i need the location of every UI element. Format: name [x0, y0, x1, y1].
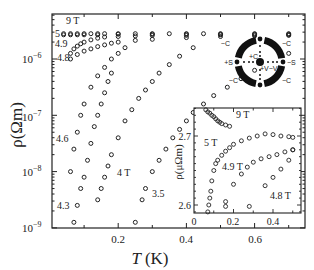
data-point	[89, 141, 93, 145]
data-point	[82, 49, 86, 53]
data-point	[69, 170, 73, 174]
inset-label-5T: 5 T	[204, 137, 217, 148]
data-point	[116, 40, 120, 44]
data-point	[123, 119, 127, 123]
data-point	[164, 147, 168, 151]
data-point	[106, 164, 110, 168]
inset-plot: 2.7 2.6 0 0.2 0.4 ρ(μΩm) 9 T 5 T 4.9 T 4…	[172, 108, 301, 227]
data-point	[212, 94, 216, 98]
inset-label-4.8T: 4.8 T	[270, 190, 291, 201]
contact-label-c-plus: +C	[249, 53, 258, 60]
data-point	[72, 220, 76, 224]
data-point	[103, 65, 107, 69]
label-3.5T: 3.5	[152, 188, 165, 199]
data-point	[171, 136, 175, 140]
data-point	[157, 71, 161, 75]
data-point	[96, 45, 100, 49]
data-point	[99, 187, 103, 191]
data-point	[150, 80, 154, 84]
data-point	[89, 85, 93, 89]
inset-y-axis-label: ρ(μΩm)	[172, 144, 185, 180]
data-point	[89, 32, 93, 36]
contact-label-s-right: −S	[287, 59, 296, 66]
contact-diagram: −C −C −C −C +S −S +C +V−V	[221, 37, 296, 88]
data-point	[133, 220, 137, 224]
contact-label-c-tr: −C	[282, 40, 291, 47]
data-point	[79, 113, 83, 117]
xtick-0.4: 0.4	[179, 233, 193, 245]
data-point	[157, 158, 161, 162]
contact-label-c-tl: −C	[221, 40, 230, 47]
data-point	[225, 85, 229, 89]
data-point	[96, 74, 100, 78]
contact-label-s-left: +S	[224, 59, 233, 66]
data-point	[82, 102, 86, 106]
data-point	[133, 38, 137, 42]
data-point	[103, 43, 107, 47]
ytick-1e-8: 10−8	[22, 164, 42, 178]
data-point	[89, 47, 93, 51]
data-point	[109, 41, 113, 45]
data-point	[109, 57, 113, 61]
label-4.3T: 4.3	[57, 200, 70, 211]
data-point	[116, 51, 120, 55]
xtick-0.6: 0.6	[248, 233, 262, 245]
data-point	[75, 203, 79, 207]
data-point	[106, 80, 110, 84]
data-point	[96, 198, 100, 202]
data-point	[202, 32, 206, 36]
data-point	[109, 153, 113, 157]
inset-ytick-2.7: 2.7	[179, 131, 192, 142]
data-point	[253, 68, 257, 72]
data-point	[79, 187, 83, 191]
data-point	[202, 102, 206, 106]
data-point	[184, 119, 188, 123]
data-point	[144, 88, 148, 92]
inset-xtick-0.4: 0.4	[267, 216, 280, 227]
data-point	[72, 147, 76, 151]
data-point	[82, 40, 86, 44]
data-point	[96, 113, 100, 117]
inset-xtick-0: 0	[192, 216, 197, 227]
data-point	[150, 170, 154, 174]
label-4.8T: 4.8	[57, 52, 70, 63]
data-point	[103, 175, 107, 179]
main-x-axis-label: T(K)	[131, 249, 168, 268]
data-point	[116, 136, 120, 140]
ytick-1e-9: 10−9	[22, 220, 42, 234]
label-9T: 9 T	[66, 15, 79, 26]
data-point	[109, 71, 113, 75]
label-4.6T: 4.6	[56, 133, 69, 144]
inset-xtick-0.2: 0.2	[227, 216, 240, 227]
data-point	[144, 187, 148, 191]
label-4.9T: 4.9	[55, 38, 68, 49]
data-point	[75, 53, 79, 57]
data-point	[99, 102, 103, 106]
data-point	[191, 46, 195, 50]
figure: 10−6 10−7 10−8 10−9 0.2 0.4 0.6 T(K) ρ(Ω…	[0, 0, 314, 270]
inset-label-9T: 9 T	[236, 109, 249, 120]
data-point	[167, 63, 171, 67]
contact-label-c-bl: −C	[229, 77, 238, 84]
inset-label-4.9T: 4.9 T	[222, 161, 243, 172]
contact-label-c-br: −C	[282, 77, 291, 84]
data-point	[167, 32, 171, 36]
data-point	[137, 96, 141, 100]
data-point	[140, 198, 144, 202]
main-x-tick-labels: 0.2 0.4 0.6	[111, 233, 262, 245]
data-point	[287, 51, 291, 55]
data-point	[89, 38, 93, 42]
data-point	[103, 91, 107, 95]
ytick-1e-6: 10−6	[22, 51, 42, 65]
data-point	[130, 108, 134, 112]
data-point	[178, 54, 182, 58]
data-point	[75, 130, 79, 134]
data-point	[82, 175, 86, 179]
data-point	[92, 125, 96, 129]
xtick-0.2: 0.2	[111, 233, 125, 245]
label-4T: 4 T	[117, 167, 130, 178]
main-y-axis-label: ρ(Ωm)	[7, 102, 26, 148]
inset-ytick-2.6: 2.6	[179, 200, 192, 211]
data-point	[123, 46, 127, 50]
data-point	[86, 158, 90, 162]
